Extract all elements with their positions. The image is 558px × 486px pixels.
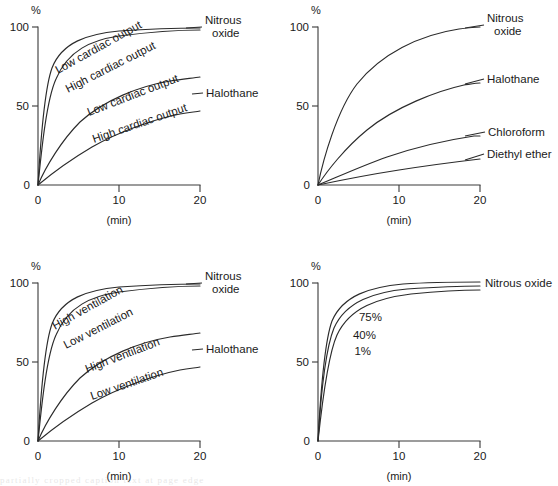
series-label-chloroform: Chloroform	[488, 126, 545, 138]
group-label-nitrous-oxide-line2: oxide	[212, 283, 240, 295]
curve-nitrous-low-ventilation	[38, 286, 200, 441]
chart-panel-concentration-effect: % 100 50 0 0 10 20 (min) 75% 40% 1% Nitr…	[279, 243, 558, 486]
curve-halothane-low-ventilation	[38, 367, 200, 441]
group-label-nitrous-oxide-line1: Nitrous	[205, 14, 242, 26]
curve-halothane-high-cardiac-output	[38, 111, 200, 185]
axis-lines	[318, 283, 480, 441]
group-label-nitrous-oxide-line2: oxide	[212, 27, 240, 39]
leader-halothane	[192, 93, 203, 94]
y-axis-unit-label: %	[31, 260, 41, 272]
y-tick-label-50: 50	[16, 356, 29, 368]
y-tick-label-100: 100	[290, 277, 309, 289]
leader-halothane	[192, 349, 203, 350]
x-tick-label-20: 20	[194, 194, 207, 206]
group-label-halothane: Halothane	[206, 343, 258, 355]
chart-panel-ventilation: % 100 50 0 0 10 20 (min) Nitrous oxide H…	[0, 243, 279, 486]
inline-label-1-percent: 1%	[354, 345, 371, 357]
series-label-halothane: Halothane	[487, 73, 539, 85]
x-tick-label-0: 0	[35, 194, 41, 206]
y-axis-unit-label: %	[311, 260, 321, 272]
axis-group	[32, 283, 200, 448]
x-tick-label-10: 10	[113, 450, 126, 462]
x-axis-unit-label: (min)	[386, 214, 411, 226]
series-label-nitrous-oxide-line2: oxide	[494, 25, 522, 37]
x-tick-label-10: 10	[393, 450, 406, 462]
x-tick-label-20: 20	[474, 194, 487, 206]
leader-chloroform	[465, 132, 485, 136]
x-tick-label-0: 0	[315, 194, 321, 206]
curve-diethyl-ether	[318, 159, 480, 185]
axis-group	[312, 283, 480, 448]
x-tick-label-10: 10	[113, 194, 126, 206]
series-label-diethyl-ether: Diethyl ether	[487, 148, 552, 160]
x-tick-label-20: 20	[194, 450, 207, 462]
chart-panel-agent-comparison: % 100 50 0 0 10 20 (min) Nitrous oxide H…	[279, 0, 558, 243]
y-axis-unit-label: %	[31, 4, 41, 16]
curve-nitrous-oxide	[318, 27, 480, 185]
y-tick-label-0: 0	[24, 435, 30, 447]
y-tick-label-100: 100	[290, 21, 309, 33]
inline-label-40-percent: 40%	[353, 329, 376, 341]
x-axis-unit-label: (min)	[106, 214, 131, 226]
y-tick-label-100: 100	[10, 277, 29, 289]
y-tick-label-50: 50	[296, 356, 309, 368]
inline-label-halothane-low-ventilation: Low ventilation	[89, 366, 165, 402]
y-tick-label-100: 100	[10, 21, 29, 33]
chart-panel-cardiac-output: % 100 50 0 0 10 20 (min) Nitrous oxide H…	[0, 0, 279, 243]
group-label-halothane: Halothane	[206, 87, 258, 99]
axis-group	[312, 27, 480, 192]
y-tick-label-50: 50	[16, 100, 29, 112]
group-label-nitrous-oxide-line1: Nitrous	[205, 270, 242, 282]
group-label-nitrous-oxide: Nitrous oxide	[485, 277, 552, 289]
anesthetic-uptake-figure: % 100 50 0 0 10 20 (min) Nitrous oxide H…	[0, 0, 558, 486]
curve-chloroform	[318, 136, 480, 185]
y-axis-unit-label: %	[311, 4, 321, 16]
y-tick-label-0: 0	[304, 179, 310, 191]
y-tick-label-0: 0	[304, 435, 310, 447]
series-label-nitrous-oxide-line1: Nitrous	[487, 12, 524, 24]
x-tick-label-0: 0	[35, 450, 41, 462]
curve-1-percent	[318, 290, 480, 441]
y-tick-label-0: 0	[24, 179, 30, 191]
curve-75-percent	[318, 282, 480, 441]
inline-label-75-percent: 75%	[359, 311, 382, 323]
axis-lines	[318, 27, 480, 185]
page-footer-artifact: partially cropped caption text at page e…	[0, 475, 558, 486]
curve-40-percent	[318, 286, 480, 441]
x-tick-label-0: 0	[315, 450, 321, 462]
x-tick-label-10: 10	[393, 194, 406, 206]
y-tick-label-50: 50	[296, 100, 309, 112]
x-tick-label-20: 20	[474, 450, 487, 462]
